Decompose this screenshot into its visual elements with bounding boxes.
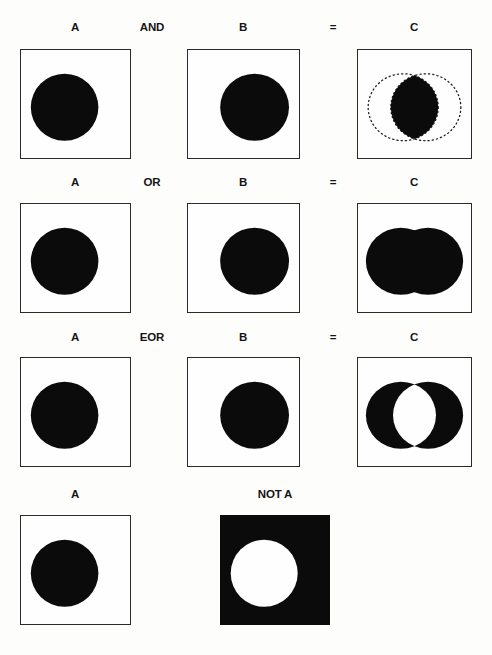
label-operand-b: B	[239, 20, 247, 34]
panel-c-and-result	[357, 49, 472, 159]
label-result-c: C	[410, 175, 418, 189]
label-operator-eor: EOR	[140, 330, 164, 344]
symmetric-difference-shape	[358, 358, 471, 466]
panel-a-and	[20, 49, 131, 159]
panel-b-or	[187, 203, 300, 313]
label-operator-and: AND	[140, 20, 164, 34]
panel-b-eor	[187, 357, 300, 467]
panel-c-eor-result	[357, 357, 472, 467]
panel-a-or	[20, 203, 131, 313]
circle-b-shape	[188, 204, 299, 312]
label-operator-not: NOT A	[258, 487, 292, 501]
boolean-logic-diagram: A AND B = C	[0, 0, 492, 655]
label-operand-b: B	[239, 175, 247, 189]
label-equals: =	[330, 20, 337, 34]
circle-a-shape	[21, 204, 130, 312]
complement-shape	[221, 516, 329, 624]
label-result-c: C	[410, 20, 418, 34]
label-result-c: C	[410, 330, 418, 344]
circle-a-shape	[21, 358, 130, 466]
union-shape	[358, 204, 471, 312]
label-equals: =	[330, 175, 337, 189]
circle-b-shape	[188, 358, 299, 466]
circle-a-shape	[21, 516, 130, 624]
label-operand-a: A	[71, 20, 79, 34]
label-operand-a: A	[71, 330, 79, 344]
circle-a-shape	[21, 50, 130, 158]
label-operand-a: A	[71, 175, 79, 189]
panel-b-and	[187, 49, 300, 159]
label-operand-b: B	[239, 330, 247, 344]
label-operand-a: A	[71, 487, 79, 501]
panel-not-a-result	[220, 515, 330, 625]
label-equals: =	[330, 330, 337, 344]
label-operator-or: OR	[144, 175, 161, 189]
panel-a-not	[20, 515, 131, 625]
panel-c-or-result	[357, 203, 472, 313]
intersection-shape	[358, 50, 471, 158]
circle-b-shape	[188, 50, 299, 158]
panel-a-eor	[20, 357, 131, 467]
